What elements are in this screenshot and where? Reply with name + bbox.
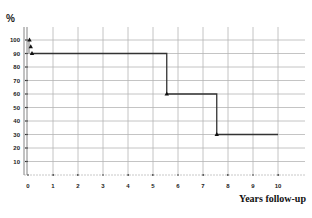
y-tick-label: 100 xyxy=(10,37,21,43)
y-tick-label: 30 xyxy=(13,132,20,138)
y-axis-unit-label: % xyxy=(6,13,15,24)
y-tick-labels: 102030405060708090100 xyxy=(10,37,21,165)
x-tick-label: 2 xyxy=(76,183,80,189)
survival-step-line xyxy=(29,40,278,135)
x-tick-label: 0 xyxy=(26,183,30,189)
x-tick-label: 1 xyxy=(51,183,55,189)
y-tick-label: 90 xyxy=(13,51,20,57)
x-tick-labels: 012345678910 xyxy=(26,183,282,189)
y-tick-label: 10 xyxy=(13,159,20,165)
x-tick-label: 9 xyxy=(251,183,255,189)
x-tick-label: 3 xyxy=(101,183,105,189)
x-tick-label: 8 xyxy=(226,183,230,189)
y-tick-label: 40 xyxy=(13,118,20,124)
x-tick-label: 4 xyxy=(126,183,130,189)
y-tick-label: 80 xyxy=(13,64,20,70)
x-tick-label: 10 xyxy=(275,183,282,189)
x-tick-label: 6 xyxy=(176,183,180,189)
y-tick-label: 70 xyxy=(13,78,20,84)
grid-lines xyxy=(28,27,305,175)
y-tick-label: 50 xyxy=(13,105,20,111)
x-tick-label: 5 xyxy=(151,183,155,189)
kaplan-meier-chart: % 102030405060708090100 012345678910 Yea… xyxy=(0,0,312,218)
x-tick-label: 7 xyxy=(201,183,205,189)
y-tick-label: 60 xyxy=(13,91,20,97)
y-tick-label: 20 xyxy=(13,145,20,151)
x-axis-title: Years follow-up xyxy=(239,193,306,204)
axes xyxy=(24,27,305,176)
